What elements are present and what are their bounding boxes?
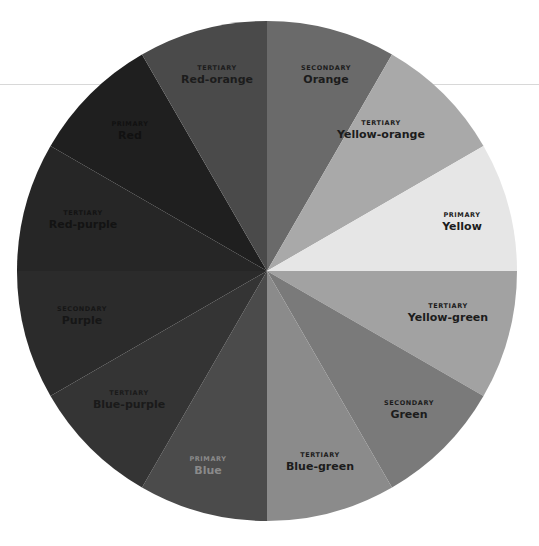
slice-name: Yellow-green bbox=[408, 311, 488, 325]
slice-name: Blue bbox=[189, 464, 226, 478]
slice-label-yellow-orange: TERTIARYYellow-orange bbox=[337, 119, 425, 142]
slice-category: SECONDARY bbox=[301, 64, 351, 73]
slice-label-red-orange: TERTIARYRed-orange bbox=[181, 64, 253, 87]
slice-label-green: SECONDARYGreen bbox=[384, 399, 434, 422]
slice-name: Blue-purple bbox=[93, 398, 165, 412]
color-wheel bbox=[0, 0, 539, 546]
slice-label-red: PRIMARYRed bbox=[111, 120, 148, 143]
slice-category: TERTIARY bbox=[408, 302, 488, 311]
slice-name: Purple bbox=[57, 314, 107, 328]
slice-label-purple: SECONDARYPurple bbox=[57, 305, 107, 328]
slice-category: PRIMARY bbox=[111, 120, 148, 129]
slice-name: Green bbox=[384, 408, 434, 422]
slice-label-blue-green: TERTIARYBlue-green bbox=[286, 451, 354, 474]
slice-name: Orange bbox=[301, 73, 351, 87]
slice-label-red-purple: TERTIARYRed-purple bbox=[49, 209, 118, 232]
slice-category: TERTIARY bbox=[49, 209, 118, 218]
slice-name: Red-orange bbox=[181, 73, 253, 87]
slice-name: Red bbox=[111, 129, 148, 143]
slice-category: TERTIARY bbox=[93, 389, 165, 398]
slice-category: TERTIARY bbox=[181, 64, 253, 73]
slice-category: SECONDARY bbox=[57, 305, 107, 314]
slice-name: Yellow-orange bbox=[337, 128, 425, 142]
slice-category: TERTIARY bbox=[337, 119, 425, 128]
slice-name: Red-purple bbox=[49, 218, 118, 232]
slice-category: SECONDARY bbox=[384, 399, 434, 408]
slice-label-blue: PRIMARYBlue bbox=[189, 455, 226, 478]
slice-category: PRIMARY bbox=[189, 455, 226, 464]
slice-label-yellow-green: TERTIARYYellow-green bbox=[408, 302, 488, 325]
slice-label-orange: SECONDARYOrange bbox=[301, 64, 351, 87]
slice-name: Yellow bbox=[442, 220, 482, 234]
slice-category: PRIMARY bbox=[442, 211, 482, 220]
slice-name: Blue-green bbox=[286, 460, 354, 474]
slice-category: TERTIARY bbox=[286, 451, 354, 460]
slice-label-blue-purple: TERTIARYBlue-purple bbox=[93, 389, 165, 412]
slice-label-yellow: PRIMARYYellow bbox=[442, 211, 482, 234]
